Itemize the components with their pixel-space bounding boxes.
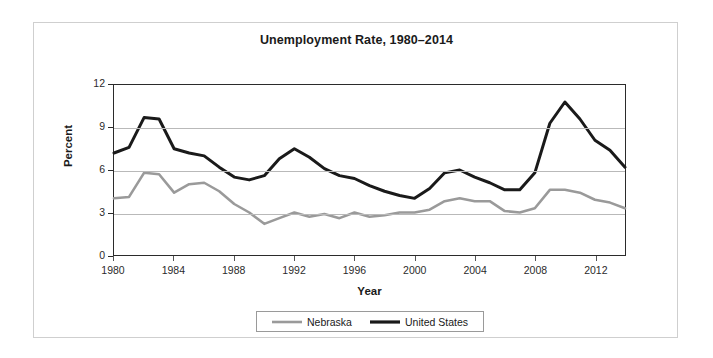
y-tick-label: 9 <box>71 120 105 132</box>
y-axis-title: Percent <box>62 101 74 191</box>
gridline <box>114 171 625 172</box>
x-axis-title: Year <box>113 285 626 297</box>
x-tick-mark <box>596 256 597 261</box>
legend-label-nebraska: Nebraska <box>307 316 352 328</box>
legend-item-united-states: United States <box>370 316 468 328</box>
x-tick-mark <box>415 256 416 261</box>
chart-figure-frame: Unemployment Rate, 1980–2014 Percent 036… <box>33 22 678 338</box>
x-tick-mark <box>535 256 536 261</box>
x-tick-mark <box>475 256 476 261</box>
plot-area <box>113 84 626 256</box>
y-tick-label: 3 <box>71 206 105 218</box>
x-tick-label: 1984 <box>143 264 203 276</box>
series-lines <box>114 85 625 255</box>
legend-line-swatch-nebraska <box>272 317 302 327</box>
legend-item-nebraska: Nebraska <box>272 316 352 328</box>
chart-legend: Nebraska United States <box>256 311 484 332</box>
x-tick-label: 2012 <box>566 264 626 276</box>
y-tick-label: 6 <box>71 163 105 175</box>
y-tick-mark <box>108 213 113 214</box>
x-tick-mark <box>234 256 235 261</box>
x-tick-mark <box>113 256 114 261</box>
x-tick-label: 2004 <box>445 264 505 276</box>
y-tick-label: 0 <box>71 249 105 261</box>
x-tick-label: 2000 <box>385 264 445 276</box>
chart-title: Unemployment Rate, 1980–2014 <box>34 33 679 47</box>
x-tick-label: 1992 <box>264 264 324 276</box>
y-tick-mark <box>108 127 113 128</box>
gridline <box>114 214 625 215</box>
x-tick-mark <box>354 256 355 261</box>
x-tick-mark <box>173 256 174 261</box>
series-line-nebraska <box>114 173 625 224</box>
gridline <box>114 128 625 129</box>
legend-label-united-states: United States <box>405 316 468 328</box>
x-tick-label: 1996 <box>324 264 384 276</box>
y-tick-mark <box>108 84 113 85</box>
x-tick-label: 1980 <box>83 264 143 276</box>
x-tick-label: 2008 <box>505 264 565 276</box>
x-tick-label: 1988 <box>204 264 264 276</box>
y-tick-label: 12 <box>71 77 105 89</box>
legend-line-swatch-united-states <box>370 317 400 327</box>
x-tick-mark <box>294 256 295 261</box>
y-tick-mark <box>108 170 113 171</box>
